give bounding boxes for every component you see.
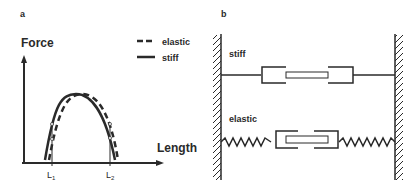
y-axis-label: Force — [21, 36, 54, 50]
legend: elastic stiff — [137, 37, 190, 63]
stiff-right-bracket — [328, 67, 353, 83]
legend-elastic: elastic — [162, 37, 190, 47]
elastic-label: elastic — [229, 114, 257, 124]
stiff-label: stiff — [229, 49, 247, 59]
left-wall-hatching — [213, 35, 221, 180]
left-spring — [221, 138, 271, 146]
right-spring — [339, 138, 395, 146]
legend-stiff: stiff — [162, 53, 180, 63]
right-wall-hatching — [395, 35, 403, 180]
tick-l2: L2 — [106, 170, 115, 181]
tick-l1: L1 — [47, 170, 56, 181]
panel-b-label: b — [221, 9, 227, 19]
stiff-filament — [286, 72, 328, 78]
x-axis-arrow-icon — [156, 160, 164, 166]
panel-a-label: a — [20, 9, 26, 19]
panel-a: a Force Length L1 L2 elastic stiff — [20, 9, 197, 181]
y-axis-arrow-icon — [21, 55, 27, 63]
x-axis-label: Length — [157, 141, 197, 155]
figure: a Force Length L1 L2 elastic stiff b — [0, 0, 417, 190]
elastic-filament — [286, 136, 328, 143]
panel-b: b stiff elastic — [213, 9, 403, 180]
stiff-left-bracket — [262, 67, 286, 83]
